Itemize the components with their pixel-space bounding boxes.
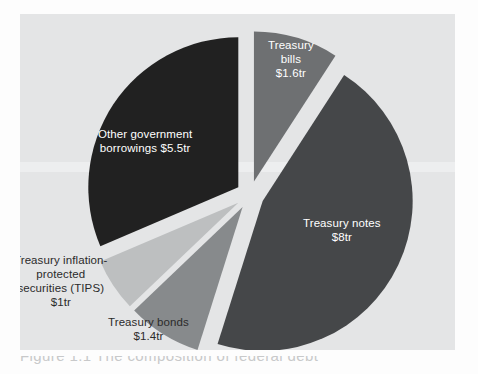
pie-chart-panel: Treasury bills $1.6trTreasury notes $8tr…	[20, 14, 455, 350]
pie-slice-label-treasury-bonds: Treasury bonds $1.4tr	[108, 315, 189, 343]
pie-slice-treasury-notes[interactable]	[218, 75, 413, 350]
pie-slice-label-treasury-notes: Treasury notes $8tr	[303, 216, 381, 244]
figure-caption-strip: Figure 1.1 The composition of federal de…	[20, 356, 455, 374]
pie-slice-label-treasury-tips: Treasury inflation- protected securities…	[20, 253, 108, 309]
figure-caption-text: Figure 1.1 The composition of federal de…	[20, 356, 318, 364]
pie-slice-label-treasury-bills: Treasury bills $1.6tr	[268, 38, 314, 80]
figure-root: Treasury bills $1.6trTreasury notes $8tr…	[0, 0, 478, 374]
pie-slice-label-other-government-borrowings: Other government borrowings $5.5tr	[98, 127, 192, 155]
